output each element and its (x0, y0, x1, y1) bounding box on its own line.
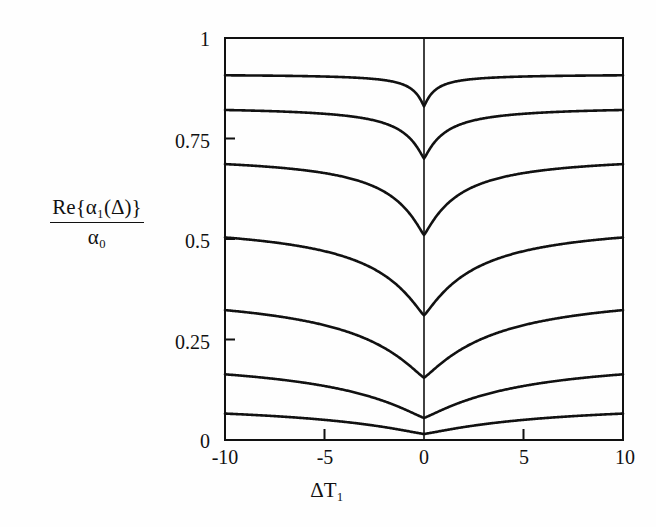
plot-canvas (0, 0, 656, 527)
figure-root: Re{α₁(Δ)} α₀ ΔT₁ 1 0.75 0.5 0.25 0 -10 -… (0, 0, 656, 527)
